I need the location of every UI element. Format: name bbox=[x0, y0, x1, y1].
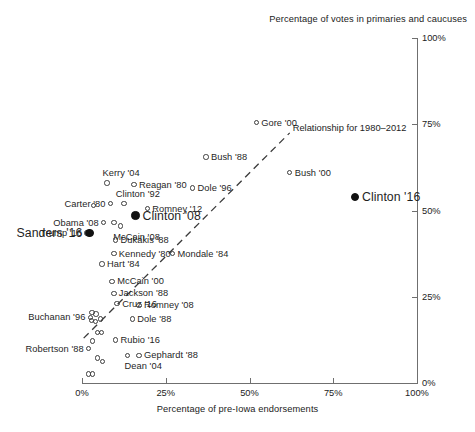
x-tick-mark bbox=[417, 378, 418, 383]
x-tick-label: 100% bbox=[405, 388, 429, 398]
data-point bbox=[101, 220, 106, 225]
data-point bbox=[125, 353, 130, 358]
x-tick-label: 75% bbox=[324, 388, 343, 398]
data-point-label: Clinton '16 bbox=[362, 190, 420, 204]
data-point bbox=[108, 201, 113, 206]
y-tick-mark bbox=[412, 211, 417, 212]
data-point bbox=[287, 170, 292, 175]
y-tick-mark bbox=[412, 383, 417, 384]
data-point bbox=[131, 182, 136, 187]
x-tick-mark bbox=[82, 378, 83, 383]
y-axis-line bbox=[417, 38, 418, 384]
data-point bbox=[99, 330, 104, 335]
x-tick-mark bbox=[333, 378, 334, 383]
x-tick-mark bbox=[166, 378, 167, 383]
data-point bbox=[136, 353, 141, 358]
data-point bbox=[190, 185, 195, 190]
data-point-label: Mondale '84 bbox=[177, 249, 228, 259]
data-point bbox=[114, 301, 119, 306]
y-tick-mark bbox=[412, 297, 417, 298]
data-point-label: Buchanan '96 bbox=[28, 312, 85, 322]
y-tick-label: 50% bbox=[422, 206, 441, 216]
data-point bbox=[109, 279, 114, 284]
data-point-label: Sanders '16 bbox=[17, 226, 83, 240]
y-tick-mark bbox=[412, 38, 417, 39]
data-point bbox=[86, 346, 91, 351]
data-point-label: Dole '88 bbox=[137, 314, 171, 324]
data-point bbox=[136, 303, 141, 308]
data-point bbox=[85, 229, 93, 237]
scatter-plot: Percentage of votes in primaries and cau… bbox=[0, 0, 475, 432]
data-point-label: Robertson '88 bbox=[25, 344, 83, 354]
data-point-label: Dean '04 bbox=[125, 361, 162, 371]
data-point bbox=[98, 316, 103, 321]
x-tick-label: 25% bbox=[156, 388, 175, 398]
data-point-label: Dukakis '88 bbox=[121, 235, 169, 245]
x-tick-label: 50% bbox=[240, 388, 259, 398]
x-axis-title: Percentage of pre-Iowa endorsements bbox=[0, 404, 475, 414]
data-point bbox=[104, 180, 109, 185]
y-tick-label: 0% bbox=[422, 378, 435, 388]
data-point-label: Kennedy '80 bbox=[119, 249, 171, 259]
data-point-label: Rubio '16 bbox=[121, 335, 160, 345]
data-point-label: Gephardt '88 bbox=[144, 350, 198, 360]
data-point bbox=[113, 337, 118, 342]
data-point bbox=[130, 316, 135, 321]
data-point bbox=[131, 211, 139, 219]
x-tick-mark bbox=[250, 378, 251, 383]
data-point bbox=[90, 338, 95, 343]
data-point bbox=[254, 120, 259, 125]
y-tick-mark bbox=[412, 124, 417, 125]
data-point-label: Bush '00 bbox=[295, 168, 331, 178]
data-point-label: Carter '80 bbox=[64, 199, 105, 209]
data-point-label: Dole '96 bbox=[198, 183, 232, 193]
data-point-label: Jackson '88 bbox=[119, 288, 168, 298]
trend-line bbox=[0, 0, 475, 432]
x-axis-line bbox=[82, 383, 418, 384]
data-point-label: Clinton '92 bbox=[116, 189, 160, 199]
trend-annotation-label: Relationship for 1980–2012 bbox=[293, 123, 407, 133]
y-tick-label: 75% bbox=[422, 119, 441, 129]
data-point bbox=[111, 251, 116, 256]
data-point bbox=[111, 291, 116, 296]
data-point-label: McCain '00 bbox=[117, 276, 164, 286]
data-point bbox=[90, 371, 95, 376]
data-point-label: Gore '00 bbox=[261, 118, 297, 128]
data-point bbox=[121, 201, 126, 206]
data-point bbox=[111, 220, 116, 225]
data-point bbox=[351, 193, 359, 201]
data-point bbox=[118, 223, 123, 228]
data-point bbox=[99, 261, 104, 266]
data-point bbox=[100, 359, 105, 364]
data-point-label: Bush '88 bbox=[211, 152, 247, 162]
y-tick-label: 100% bbox=[422, 33, 446, 43]
data-point bbox=[113, 237, 118, 242]
data-point-label: Kerry '04 bbox=[102, 168, 139, 178]
data-point bbox=[170, 251, 175, 256]
data-point-label: Clinton '08 bbox=[143, 209, 201, 223]
data-point-label: Hart '84 bbox=[107, 259, 140, 269]
y-tick-label: 25% bbox=[422, 292, 441, 302]
y-axis-title: Percentage of votes in primaries and cau… bbox=[269, 14, 467, 24]
data-point-label: Romney '08 bbox=[144, 300, 194, 310]
x-tick-label: 0% bbox=[75, 388, 88, 398]
data-point bbox=[203, 154, 208, 159]
